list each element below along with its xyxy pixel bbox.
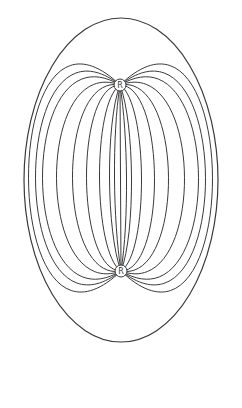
node-top-label: R <box>117 81 123 90</box>
field-line <box>120 85 132 271</box>
field-line <box>56 82 121 274</box>
node-top: R <box>114 79 126 91</box>
field-line <box>86 85 121 271</box>
field-lines <box>28 64 212 292</box>
node-bottom-label: R <box>118 267 124 276</box>
field-line <box>120 82 185 274</box>
field-line <box>109 85 121 271</box>
field-line <box>120 85 155 271</box>
node-bottom: R <box>115 265 127 277</box>
field-line <box>120 85 121 271</box>
field-line-diagram: R R <box>0 0 242 408</box>
